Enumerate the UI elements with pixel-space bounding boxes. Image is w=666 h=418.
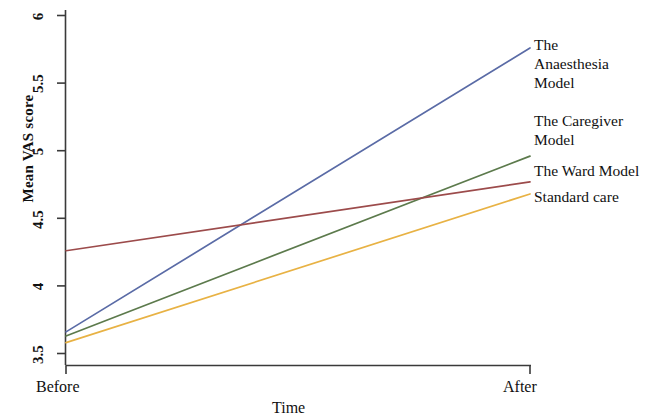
x-tick-label-before: Before — [36, 378, 80, 396]
y-tick-label-3-5: 3.5 — [30, 335, 47, 375]
chart-figure: Mean VAS score 6 5.5 5 4.5 4 3.5 Before … — [0, 0, 666, 418]
x-axis-ticks — [66, 366, 530, 375]
legend-item-standard: Standard care — [534, 187, 619, 206]
y-tick-label-4: 4 — [30, 267, 47, 307]
series-lines — [66, 48, 530, 343]
y-axis-ticks — [57, 16, 66, 354]
legend-item-anaesthesia: The Anaesthesia Model — [534, 35, 609, 92]
y-tick-label-4-5: 4.5 — [30, 200, 47, 240]
legend-item-caregiver: The Caregiver Model — [534, 111, 623, 149]
y-tick-label-5-5: 5.5 — [30, 64, 47, 104]
y-tick-label-6: 6 — [30, 0, 47, 37]
legend-item-ward: The Ward Model — [534, 161, 639, 180]
x-tick-label-after: After — [503, 378, 537, 396]
series-line-the-caregiver-model — [66, 156, 530, 336]
series-line-the-anaesthesia-model — [66, 48, 530, 332]
y-tick-label-5: 5 — [30, 132, 47, 172]
x-axis-title: Time — [272, 399, 305, 417]
